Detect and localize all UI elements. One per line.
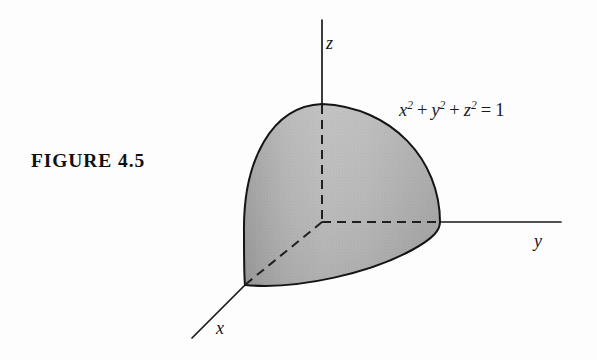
axis-label-y: y (534, 231, 542, 252)
axis-label-x: x (216, 318, 224, 339)
axis-label-z: z (326, 33, 333, 54)
figure-drawing (0, 0, 597, 360)
figure-container: FIGURE 4.5 x2+y2+z2=1 (0, 0, 597, 360)
